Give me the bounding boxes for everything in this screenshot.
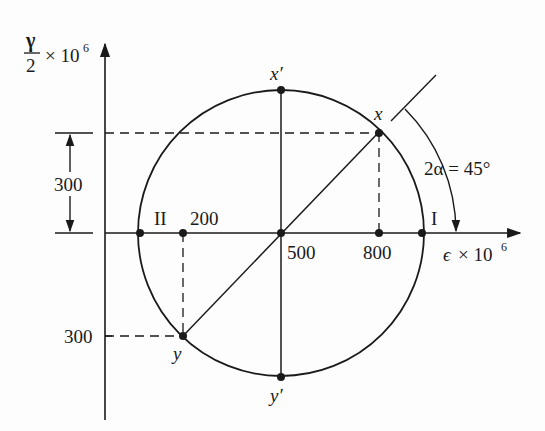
point-y	[179, 332, 187, 340]
dim-label-300: 300	[54, 174, 83, 195]
haxis-label-exp: 6	[501, 240, 507, 254]
point-x-prime	[277, 86, 285, 94]
point-center	[277, 229, 285, 237]
label-x: x	[373, 103, 383, 124]
label-I: I	[431, 208, 437, 229]
haxis-label-suffix: × 10	[458, 244, 492, 265]
label-x-prime: x′	[269, 63, 283, 84]
vaxis-label-suffix: × 10	[45, 45, 79, 66]
angle-label: 2α = 45°	[424, 158, 490, 179]
point-I	[418, 229, 426, 237]
point-II	[136, 229, 144, 237]
label-II: II	[154, 208, 167, 229]
point-x	[375, 129, 383, 137]
angle-extension-line	[391, 75, 436, 121]
haxis-label-symbol: ϵ	[443, 244, 452, 265]
point-800	[375, 229, 383, 237]
tick-label-500: 500	[287, 242, 316, 263]
mohr-circle-diagram: γ 2 × 10 6 ϵ × 10 6 x′ y′ x y I II 200 5…	[0, 0, 545, 431]
label-y: y	[171, 343, 182, 364]
label-y-prime: y′	[268, 385, 283, 406]
tick-label-800: 800	[363, 242, 392, 263]
diagram-svg: γ 2 × 10 6 ϵ × 10 6 x′ y′ x y I II 200 5…	[0, 0, 545, 431]
vaxis-label-numerator: γ	[25, 29, 36, 52]
point-y-prime	[277, 373, 285, 381]
vaxis-label-denominator: 2	[26, 55, 36, 76]
vaxis-label-exp: 6	[83, 41, 89, 55]
tick-label-300-lower: 300	[64, 326, 93, 347]
point-200	[179, 229, 187, 237]
tick-label-200: 200	[190, 208, 219, 229]
